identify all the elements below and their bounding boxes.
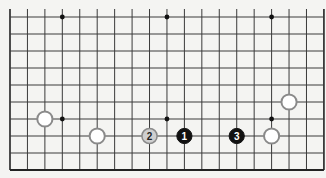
black-stone: 1 (177, 128, 192, 143)
hoshi-point-icon (60, 117, 65, 122)
hoshi-point-icon (269, 117, 274, 122)
board-grid (10, 9, 324, 170)
white-stone (281, 94, 296, 109)
move-number-label: 1 (182, 131, 188, 142)
stone-icon (37, 111, 52, 126)
hoshi-point-icon (269, 15, 274, 20)
stone-icon (90, 128, 105, 143)
white-stone (90, 128, 105, 143)
white-stone (37, 111, 52, 126)
hoshi-point-icon (60, 15, 65, 20)
stone-icon (264, 128, 279, 143)
move-number-label: 3 (234, 131, 240, 142)
grey-stone: 2 (142, 128, 157, 143)
move-number-label: 2 (147, 131, 153, 142)
stone-icon (281, 94, 296, 109)
go-board-diagram: 213 (0, 0, 326, 178)
black-stone: 3 (229, 128, 244, 143)
white-stone (264, 128, 279, 143)
hoshi-point-icon (165, 117, 170, 122)
hoshi-point-icon (165, 15, 170, 20)
